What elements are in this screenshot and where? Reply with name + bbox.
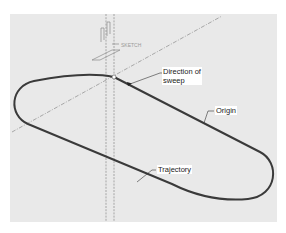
start-point-marker: [112, 75, 116, 79]
callout-direction-line2: sweep: [163, 76, 201, 85]
leader-origin: [204, 111, 214, 123]
callout-origin: Origin: [215, 106, 237, 115]
sweep-diagram: [0, 0, 286, 233]
callout-direction-line1: Direction of: [163, 67, 201, 76]
callout-direction-of-sweep: Direction of sweep: [162, 67, 202, 85]
datum-label: SKETCH: [121, 42, 141, 48]
leader-direction: [130, 73, 162, 84]
trajectory-path: [14, 75, 273, 200]
callout-trajectory: Trajectory: [157, 165, 192, 174]
